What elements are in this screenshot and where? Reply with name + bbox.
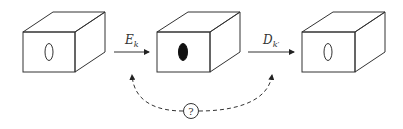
digit-zero-ellipse [45,44,53,61]
encoded-blob [179,44,188,61]
decode-label: Dk′ [262,33,279,49]
diagram-canvas: Ek Dk′ ? [0,0,403,129]
cube-encoded [157,12,240,72]
digit-zero-ellipse [324,44,332,61]
cube-output [302,12,385,72]
question-mark: ? [188,106,193,117]
arrow-encode: Ek [114,33,149,52]
cube-input [23,12,105,72]
dashed-question-link: ? [132,75,272,119]
encode-label: Ek [124,33,139,49]
arrow-decode: Dk′ [248,33,294,52]
